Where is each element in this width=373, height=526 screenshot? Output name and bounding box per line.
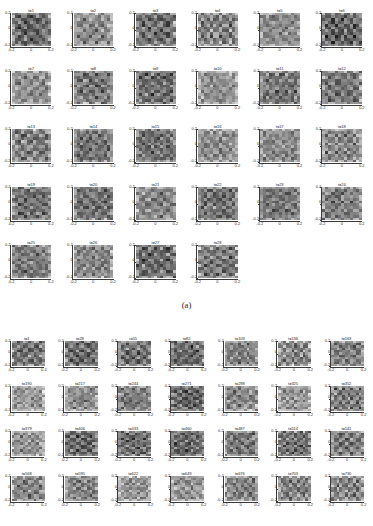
x-tick-label: 0.2 (201, 502, 207, 507)
plot-area: 0.20-0.2-0.200.2 (196, 13, 237, 48)
subplot-axes: 0.20-0.2-0.200.2 (330, 386, 373, 413)
y-tick-label: 0.2 (316, 10, 322, 15)
x-axis-ticklabels: -0.200.2 (260, 163, 300, 169)
plot-area: 0.20-0.2-0.200.2 (170, 386, 204, 413)
y-tick-label: 0.2 (112, 428, 118, 433)
heatmap-subplot: t=3250.20-0.2-0.200.2 (266, 381, 319, 426)
x-tick-label: 0 (279, 163, 281, 168)
x-axis-ticklabels: -0.200.2 (64, 457, 97, 463)
y-tick-label: -0.2 (190, 158, 197, 163)
y-tick-label: 0.2 (58, 428, 64, 433)
subplot-axes: 0.20-0.2-0.200.2 (10, 386, 53, 413)
subplot-axes: 0.20-0.2-0.200.2 (321, 13, 373, 48)
x-tick-label: 0 (346, 412, 348, 417)
subplot-axes: 0.20-0.2-0.200.2 (196, 13, 248, 48)
x-axis-ticklabels: -0.200.2 (11, 105, 51, 111)
x-tick-label: 0.2 (201, 367, 207, 372)
y-axis-ticklabels: 0.20-0.2 (215, 383, 224, 409)
heatmap-image (136, 13, 176, 47)
y-tick-label: 0 (257, 25, 259, 30)
x-tick-label: -0.2 (256, 221, 263, 226)
x-tick-label: 0.2 (48, 47, 54, 52)
plot-area: 0.20-0.2-0.200.2 (10, 245, 51, 280)
x-tick-label: 0 (293, 367, 295, 372)
x-tick-label: 0 (186, 502, 188, 507)
y-tick-label: -0.2 (217, 452, 224, 457)
heatmap-image (74, 71, 114, 105)
x-axis-ticklabels: -0.200.2 (11, 412, 44, 418)
subplot-axes: 0.20-0.2-0.200.2 (63, 341, 106, 368)
subplot-axes: 0.20-0.2-0.200.2 (330, 431, 373, 458)
plot-area: 0.20-0.2-0.200.2 (134, 187, 175, 222)
x-tick-label: 0 (240, 457, 242, 462)
x-tick-label: 0 (133, 457, 135, 462)
heatmap-subplot: t=10.20-0.2-0.200.2 (0, 8, 62, 66)
x-tick-label: -0.2 (114, 457, 121, 462)
y-tick-label: -0.2 (252, 216, 259, 221)
x-tick-label: -0.2 (168, 502, 175, 507)
y-tick-label: -0.2 (270, 362, 277, 367)
x-tick-label: 0.2 (48, 279, 54, 284)
x-axis-ticklabels: -0.200.2 (135, 279, 175, 285)
x-tick-label: 0 (216, 163, 218, 168)
x-axis-ticklabels: -0.200.2 (277, 457, 310, 463)
y-tick-label: 0 (221, 394, 223, 399)
heatmap-subplot: t=30.20-0.2-0.200.2 (124, 8, 186, 66)
x-tick-label: 0.2 (308, 412, 314, 417)
heatmap-subplot: t=130.20-0.2-0.200.2 (0, 124, 62, 182)
y-tick-label: 0 (62, 349, 64, 354)
y-tick-label: -0.2 (323, 452, 330, 457)
x-tick-label: -0.2 (327, 457, 334, 462)
x-axis-ticklabels: -0.200.2 (171, 367, 204, 373)
heatmap-subplot: t=1360.20-0.2-0.200.2 (266, 336, 319, 381)
y-axis-ticklabels: 0.20-0.2 (321, 428, 330, 454)
plot-area: 0.20-0.2-0.200.2 (196, 129, 237, 164)
subplot-axes: 0.20-0.2-0.200.2 (117, 386, 160, 413)
x-tick-label: -0.2 (61, 412, 68, 417)
x-axis-ticklabels: -0.200.2 (224, 412, 257, 418)
y-tick-label: -0.2 (217, 497, 224, 502)
y-tick-label: -0.2 (163, 452, 170, 457)
subplot-axes: 0.20-0.2-0.200.2 (72, 71, 124, 106)
x-axis-ticklabels: -0.200.2 (73, 163, 113, 169)
plot-area: 0.20-0.2-0.200.2 (63, 476, 97, 503)
y-axis-ticklabels: 0.20-0.2 (161, 473, 170, 499)
x-tick-label: -0.2 (318, 163, 325, 168)
plot-area: 0.20-0.2-0.200.2 (223, 476, 257, 503)
x-tick-label: 0.2 (308, 367, 314, 372)
y-tick-label: 0 (70, 199, 72, 204)
y-axis-ticklabels: 0.20-0.2 (188, 126, 197, 160)
y-tick-label: -0.2 (4, 216, 11, 221)
x-tick-label: 0 (186, 412, 188, 417)
x-axis-ticklabels: -0.200.2 (11, 367, 44, 373)
x-tick-label: 0.2 (172, 279, 178, 284)
heatmap-subplot: t=2170.20-0.2-0.200.2 (53, 381, 106, 426)
plot-area: 0.20-0.2-0.200.2 (170, 476, 204, 503)
heatmap-image (118, 476, 151, 502)
plot-area: 0.20-0.2-0.200.2 (117, 476, 151, 503)
y-tick-label: 0.2 (218, 428, 224, 433)
y-tick-label: -0.2 (314, 158, 321, 163)
x-tick-label: 0 (293, 502, 295, 507)
heatmap-subplot: t=5140.20-0.2-0.200.2 (266, 426, 319, 471)
x-tick-label: 0.2 (48, 221, 54, 226)
subplot-axes: 0.20-0.2-0.200.2 (134, 187, 186, 222)
y-tick-label: 0 (115, 394, 117, 399)
heatmap-subplot: t=1900.20-0.2-0.200.2 (0, 381, 53, 426)
y-tick-label: -0.2 (4, 100, 11, 105)
y-tick-label: 0 (8, 484, 10, 489)
y-axis-ticklabels: 0.20-0.2 (2, 383, 11, 409)
x-tick-label: 0 (279, 47, 281, 52)
subplot-axes: 0.20-0.2-0.200.2 (196, 187, 248, 222)
x-tick-label: 0.2 (148, 412, 154, 417)
y-tick-label: 0.2 (325, 428, 331, 433)
x-tick-label: -0.2 (132, 221, 139, 226)
heatmap-subplot: t=170.20-0.2-0.200.2 (249, 124, 311, 182)
y-tick-label: 0 (328, 439, 330, 444)
y-axis-ticklabels: 0.20-0.2 (215, 473, 224, 499)
x-axis-ticklabels: -0.200.2 (11, 221, 51, 227)
heatmap-image (12, 13, 52, 47)
x-tick-label: -0.2 (274, 367, 281, 372)
x-tick-label: -0.2 (132, 163, 139, 168)
y-axis-ticklabels: 0.20-0.2 (268, 428, 277, 454)
